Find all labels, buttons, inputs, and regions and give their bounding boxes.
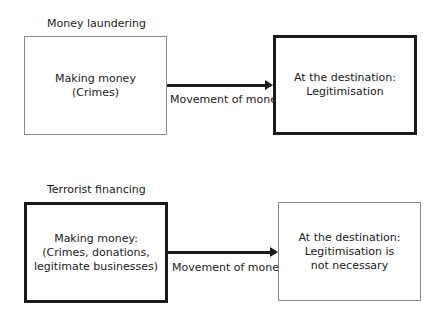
ml-source-box: Making money (Crimes) — [24, 36, 167, 135]
ml-arrow — [167, 84, 271, 87]
ml-arrow-label: Movement of money — [170, 93, 284, 106]
ml-source-text: Making money (Crimes) — [55, 72, 136, 100]
money-laundering-title: Money laundering — [47, 17, 146, 30]
tf-destination-box: At the destination: Legitimisation is no… — [278, 202, 421, 301]
ml-destination-text: At the destination: Legitimisation — [294, 71, 396, 99]
tf-destination-text: At the destination: Legitimisation is no… — [298, 231, 400, 273]
tf-source-box: Making money: (Crimes, donations, legiti… — [24, 202, 168, 303]
tf-source-text: Making money: (Crimes, donations, legiti… — [34, 232, 158, 274]
ml-destination-box: At the destination: Legitimisation — [273, 35, 417, 135]
tf-arrow-label: Movement of money — [172, 261, 286, 274]
terrorist-financing-title: Terrorist financing — [47, 183, 146, 196]
tf-arrow — [168, 251, 276, 254]
